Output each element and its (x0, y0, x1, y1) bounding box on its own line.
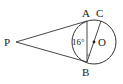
center-point-o (93, 41, 96, 44)
label-o: O (98, 36, 106, 48)
label-a: A (82, 7, 90, 19)
angle-label: 16° (72, 37, 85, 47)
label-c: C (96, 7, 103, 19)
label-p: P (4, 36, 10, 48)
label-b: B (82, 66, 89, 78)
geometry-diagram: P A C B O 16° (0, 0, 123, 84)
